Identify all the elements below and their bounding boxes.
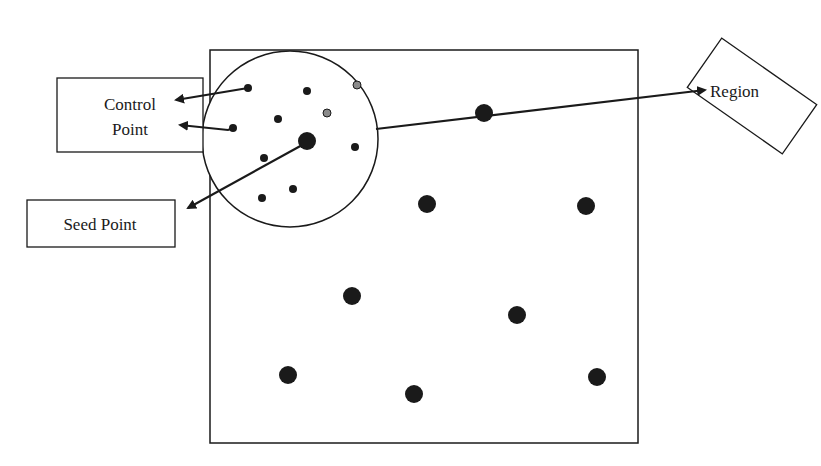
region-point-dot xyxy=(258,194,266,202)
region-point-dot xyxy=(303,87,311,95)
seed-point-label: Seed Point xyxy=(27,200,175,247)
control-point-label: Control Point xyxy=(57,78,203,152)
control-point-text-line2: Point xyxy=(112,120,148,139)
seed-dot xyxy=(418,195,436,213)
seed-point-text: Seed Point xyxy=(63,215,136,234)
region-point-dot-gray xyxy=(353,81,361,89)
region-text: Region xyxy=(710,82,760,101)
seed-dot xyxy=(405,385,423,403)
control-point-dot xyxy=(229,124,237,132)
seed-dot xyxy=(508,306,526,324)
seed-dot xyxy=(588,368,606,386)
seed-dot xyxy=(577,197,595,215)
control-point-text-line1: Control xyxy=(104,95,156,114)
region-growing-diagram: Control Point Seed Point Region xyxy=(0,0,821,466)
region-point-dot xyxy=(274,115,282,123)
control-point-box xyxy=(57,78,203,152)
seed-point-dot xyxy=(298,132,316,150)
seed-dot xyxy=(279,366,297,384)
control-point-dot xyxy=(244,84,252,92)
region-point-dot xyxy=(351,143,359,151)
seed-dot xyxy=(475,104,493,122)
seed-dot xyxy=(343,287,361,305)
region-circle xyxy=(202,51,378,227)
region-point-dot xyxy=(289,185,297,193)
arrow-region xyxy=(376,90,705,129)
region-point-dot-gray xyxy=(323,109,331,117)
region-point-dot xyxy=(260,154,268,162)
